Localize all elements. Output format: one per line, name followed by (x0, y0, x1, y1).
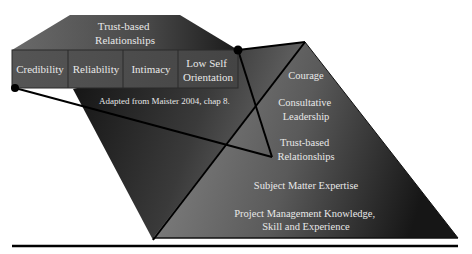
component-reliability: Reliability (73, 63, 120, 75)
component-credibility: Credibility (16, 63, 64, 75)
diagram-canvas: Trust-based Relationships Credibility Re… (0, 0, 472, 254)
level-subject-matter-expertise: Subject Matter Expertise (254, 180, 359, 191)
citation: Adapted from Maister 2004, chap 8. (99, 96, 230, 106)
connector-dot-left (11, 84, 19, 92)
trust-header-line2: Relationships (95, 34, 155, 46)
level-courage: Courage (288, 70, 324, 81)
connector-dot-right (234, 46, 243, 55)
trust-header-line1: Trust-based (98, 20, 150, 32)
component-intimacy: Intimacy (131, 63, 171, 75)
